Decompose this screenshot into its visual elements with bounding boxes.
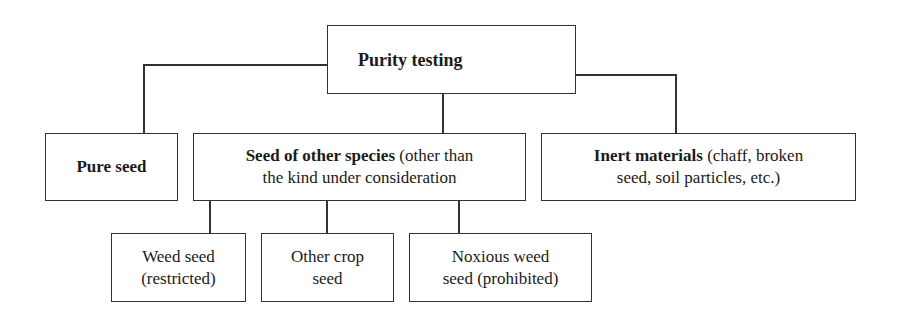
node-other-crop-seed-line2: seed bbox=[312, 268, 342, 290]
node-other-crop-seed-line1: Other crop bbox=[291, 246, 364, 268]
node-purity-testing: Purity testing bbox=[327, 25, 576, 94]
node-pure-seed-label: Pure seed bbox=[76, 156, 146, 178]
node-seed-other-species-rest1: (other than bbox=[395, 146, 473, 165]
node-seed-other-species-line1: Seed of other species (other than bbox=[246, 145, 474, 167]
node-inert-materials-line2: seed, soil particles, etc.) bbox=[617, 167, 780, 189]
node-seed-other-species-bold: Seed of other species bbox=[246, 146, 395, 165]
node-noxious-weed-seed-line2: seed (prohibited) bbox=[443, 268, 559, 290]
node-inert-materials-rest1: (chaff, broken bbox=[703, 146, 803, 165]
node-noxious-weed-seed-line1: Noxious weed bbox=[452, 246, 550, 268]
connector-noxious bbox=[458, 199, 460, 234]
node-seed-other-species: Seed of other species (other than the ki… bbox=[193, 133, 526, 201]
node-other-crop-seed: Other crop seed bbox=[261, 233, 394, 302]
node-purity-testing-label: Purity testing bbox=[358, 49, 462, 71]
node-seed-other-species-line2: the kind under consideration bbox=[262, 167, 456, 189]
node-inert-materials-bold: Inert materials bbox=[594, 146, 703, 165]
connector-inert bbox=[675, 74, 677, 134]
node-noxious-weed-seed: Noxious weed seed (prohibited) bbox=[409, 233, 592, 302]
connector-pure-seed bbox=[143, 64, 145, 134]
connector-root-left bbox=[144, 64, 328, 66]
node-weed-seed-line2: (restricted) bbox=[141, 268, 216, 290]
connector-root-middle bbox=[442, 92, 444, 134]
connector-weed-seed bbox=[209, 199, 211, 234]
node-pure-seed: Pure seed bbox=[45, 133, 178, 201]
node-inert-materials-line1: Inert materials (chaff, broken bbox=[594, 145, 803, 167]
node-weed-seed-line1: Weed seed bbox=[142, 246, 215, 268]
node-inert-materials: Inert materials (chaff, broken seed, soi… bbox=[541, 133, 856, 201]
node-weed-seed: Weed seed (restricted) bbox=[111, 233, 246, 302]
connector-other-crop bbox=[326, 199, 328, 234]
connector-root-right bbox=[574, 74, 676, 76]
